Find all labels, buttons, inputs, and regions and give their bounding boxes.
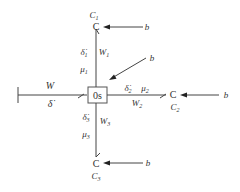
branch-right: δ̇2 μ2 W2 C C2 b — [107, 83, 229, 113]
junction-source: b — [109, 53, 155, 80]
input-effort-label: W — [46, 80, 56, 91]
bottom-flow-label: δ̇3 — [82, 112, 89, 123]
right-effort-label: W2 — [132, 98, 143, 109]
arrow-head-icon — [103, 25, 110, 30]
input-bond: W δ̇ — [18, 80, 87, 109]
junction-source-arrow — [112, 58, 146, 78]
top-flow-label: δ̇1 — [80, 47, 87, 58]
bottom-c-name: C3 — [91, 171, 100, 182]
right-flow-label: δ̇2 — [124, 83, 131, 94]
junction-0s: 0s — [88, 87, 107, 103]
bottom-param-label: μ3 — [81, 129, 90, 140]
bond-graph-diagram: W δ̇ 0s C C1 δ̇1 W1 μ1 b b δ̇2 μ2 W2 C C… — [0, 0, 240, 192]
top-c-element: C — [93, 21, 100, 32]
top-param-label: μ1 — [79, 64, 88, 75]
right-c-name: C2 — [170, 102, 179, 113]
right-source-label: b — [224, 90, 229, 100]
right-param-label: μ2 — [140, 83, 149, 94]
bottom-c-element: C — [93, 158, 100, 169]
junction-source-label: b — [150, 53, 155, 63]
half-arrow-icon — [96, 153, 100, 157]
top-source-label: b — [145, 22, 150, 32]
bottom-effort-label: W3 — [100, 116, 111, 127]
junction-label: 0s — [93, 90, 102, 101]
top-effort-label: W1 — [99, 47, 110, 58]
bottom-source-label: b — [146, 158, 151, 168]
branch-bottom: δ̇3 W3 μ3 C C3 b — [81, 103, 151, 182]
right-c-element: C — [170, 89, 177, 100]
top-c-name: C1 — [89, 10, 98, 21]
arrow-head-icon — [180, 93, 187, 98]
arrow-head-icon — [103, 161, 110, 166]
arrow-head-icon — [109, 75, 117, 81]
input-flow-label: δ̇ — [48, 98, 56, 109]
